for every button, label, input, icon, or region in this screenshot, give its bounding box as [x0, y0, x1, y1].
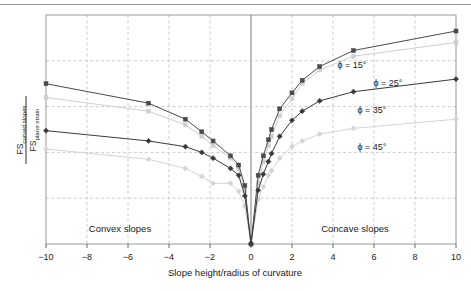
data-point-marker	[146, 138, 151, 143]
data-point-marker	[146, 157, 151, 162]
data-point-marker	[453, 117, 458, 122]
data-point-marker	[270, 128, 274, 132]
data-point-marker	[200, 130, 204, 134]
data-point-marker	[147, 101, 151, 105]
x-tick-label: 0	[248, 252, 253, 262]
chart-figure: −10−8−6−4−20246810 Slope height/radius o…	[0, 0, 471, 291]
data-point-marker	[317, 98, 322, 103]
data-point-marker	[237, 163, 241, 167]
data-point-marker	[43, 128, 48, 133]
x-tick-label: −8	[82, 252, 92, 262]
data-point-marker	[351, 89, 356, 94]
x-tick-label: −6	[123, 252, 133, 262]
data-point-marker	[290, 97, 294, 101]
data-point-marker	[183, 144, 188, 149]
data-point-marker	[256, 173, 260, 177]
x-tick-label: −2	[205, 252, 215, 262]
data-point-marker	[266, 138, 270, 142]
top-divider-rule	[0, 4, 471, 5]
x-tick-label: −10	[38, 252, 53, 262]
data-point-marker	[278, 114, 282, 118]
data-point-marker	[317, 131, 322, 136]
data-point-marker	[44, 95, 48, 99]
data-point-marker	[261, 172, 266, 177]
data-point-marker	[43, 146, 48, 151]
data-point-marker	[300, 138, 305, 143]
data-point-marker	[211, 144, 215, 148]
x-tick-label: 6	[371, 252, 376, 262]
data-point-marker	[147, 109, 151, 113]
data-point-marker	[210, 156, 215, 161]
x-tick-label: 8	[412, 252, 417, 262]
data-point-marker	[261, 154, 265, 158]
data-point-marker	[318, 65, 322, 69]
data-point-marker	[278, 107, 282, 111]
data-point-marker	[352, 54, 356, 58]
data-point-marker	[210, 181, 215, 186]
data-point-marker	[351, 126, 356, 131]
data-point-marker	[199, 150, 204, 155]
data-point-marker	[44, 82, 48, 86]
data-point-marker	[200, 134, 204, 138]
data-point-marker	[242, 193, 247, 198]
data-point-marker	[229, 154, 233, 158]
data-point-marker	[183, 117, 187, 121]
data-point-marker	[199, 174, 204, 179]
grid-layer	[46, 15, 456, 244]
x-tick-label: 10	[451, 252, 461, 262]
data-point-marker	[290, 91, 294, 95]
data-point-marker	[261, 184, 266, 189]
x-tick-label: −4	[164, 252, 174, 262]
x-tick-label: 2	[289, 252, 294, 262]
data-point-marker	[454, 40, 458, 44]
data-point-marker	[183, 123, 187, 127]
data-point-marker	[266, 159, 271, 164]
data-point-marker	[183, 166, 188, 171]
data-point-marker	[300, 78, 304, 82]
x-tick-label: 4	[330, 252, 335, 262]
data-point-marker	[211, 139, 215, 143]
slope-curvature-line-chart: −10−8−6−4−20246810	[0, 0, 471, 291]
x-axis-ticks: −10−8−6−4−20246810	[38, 244, 461, 262]
data-point-marker	[269, 151, 274, 156]
data-point-marker	[243, 184, 247, 188]
data-point-marker	[453, 77, 458, 82]
data-point-marker	[352, 49, 356, 53]
data-point-marker	[454, 29, 458, 33]
